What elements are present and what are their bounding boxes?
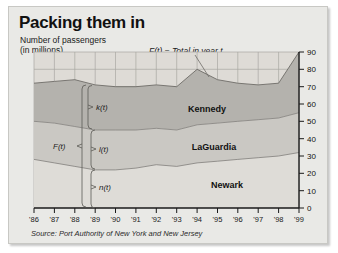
xtick-94: '94 <box>192 215 202 224</box>
ytick-30: 30 <box>307 152 316 161</box>
xtick-98: '98 <box>274 215 284 224</box>
ytick-40: 40 <box>307 135 316 144</box>
ytick-80: 80 <box>307 65 316 74</box>
ytick-70: 70 <box>307 83 316 92</box>
xtick-86: '86 <box>29 215 39 224</box>
band-label-kennedy: Kennedy <box>188 104 226 114</box>
annotation-l-of-t: l(t) <box>99 145 109 154</box>
xtick-88: '88 <box>70 215 80 224</box>
xtick-95: '95 <box>213 215 223 224</box>
area-chart-plot: 90 80 70 60 50 40 30 20 10 0 <box>9 7 329 245</box>
x-axis-tick-labels: '86 '87 '88 '89 '90 '91 '92 '93 '94 '95 … <box>29 215 304 224</box>
y-axis-ticks <box>299 52 304 208</box>
xtick-92: '92 <box>151 215 161 224</box>
band-label-newark: Newark <box>211 180 244 190</box>
y-axis-tick-labels: 90 80 70 60 50 40 30 20 10 0 <box>307 48 316 213</box>
source-note: Source: Port Authority of New York and N… <box>31 229 202 238</box>
xtick-97: '97 <box>253 215 263 224</box>
xtick-96: '96 <box>233 215 243 224</box>
xtick-91: '91 <box>131 215 141 224</box>
ytick-60: 60 <box>307 100 316 109</box>
xtick-89: '89 <box>90 215 100 224</box>
x-axis-ticks <box>34 208 299 213</box>
chart-figure: Packing them in Number of passengers (in… <box>8 6 328 244</box>
ytick-0: 0 <box>307 204 312 213</box>
xtick-87: '87 <box>50 215 60 224</box>
ytick-50: 50 <box>307 117 316 126</box>
xtick-93: '93 <box>172 215 182 224</box>
annotation-f-of-t: F(t) <box>53 142 66 151</box>
annotation-k-of-t: k(t) <box>96 103 108 112</box>
ytick-20: 20 <box>307 169 316 178</box>
annotation-n-of-t: n(t) <box>99 183 111 192</box>
ytick-90: 90 <box>307 48 316 57</box>
xtick-90: '90 <box>111 215 121 224</box>
ytick-10: 10 <box>307 187 316 196</box>
band-label-laguardia: LaGuardia <box>192 142 238 152</box>
xtick-99: '99 <box>294 215 304 224</box>
